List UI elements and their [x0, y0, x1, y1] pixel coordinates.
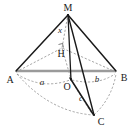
dot-O	[70, 78, 72, 80]
dot-M	[67, 14, 69, 16]
label-M: M	[64, 2, 73, 13]
label-seg-b: b	[95, 74, 100, 84]
label-A: A	[6, 74, 14, 85]
label-seg-c: c	[79, 93, 83, 103]
label-B: B	[121, 72, 128, 83]
label-C: C	[98, 116, 105, 127]
label-H: H	[57, 48, 64, 59]
label-height-x: x	[57, 25, 62, 35]
label-seg-a: a	[40, 77, 45, 87]
label-O: O	[63, 81, 70, 92]
figure-canvas: M A B C H O a b c x	[0, 0, 132, 129]
geometry-figure: M A B C H O a b c x	[0, 0, 132, 129]
dot-C	[93, 114, 95, 116]
